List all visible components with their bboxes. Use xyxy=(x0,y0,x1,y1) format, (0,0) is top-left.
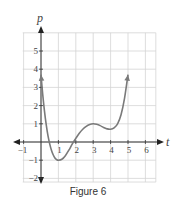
y-tick-label: 1 xyxy=(34,119,39,129)
y-tick-label: −2 xyxy=(28,173,38,183)
series-start-arrow xyxy=(39,75,45,81)
x-tick-label: 4 xyxy=(109,145,114,155)
figure-caption: Figure 6 xyxy=(0,186,176,197)
x-tick-label: 1 xyxy=(57,145,62,155)
y-tick-label: 4 xyxy=(34,64,39,74)
chart-plot: −1123456−2−112345 t p xyxy=(0,0,176,207)
y-tick-label: −1 xyxy=(28,155,38,165)
y-tick-label: 3 xyxy=(34,82,39,92)
x-tick-label: 2 xyxy=(75,145,80,155)
y-tick-label: 5 xyxy=(34,46,39,56)
x-tick-label: 5 xyxy=(127,145,132,155)
grid xyxy=(23,33,156,182)
x-axis-label: t xyxy=(166,135,170,149)
x-tick-label: 6 xyxy=(144,145,149,155)
y-tick-label: 2 xyxy=(34,101,39,111)
x-tick-label: 3 xyxy=(92,145,97,155)
y-axis-label: p xyxy=(36,11,43,25)
ticks: −1123456−2−112345 xyxy=(18,46,149,183)
y-axis-top-arrow xyxy=(38,26,44,33)
x-tick-label: −1 xyxy=(18,145,28,155)
x-axis-right-arrow xyxy=(157,139,164,145)
